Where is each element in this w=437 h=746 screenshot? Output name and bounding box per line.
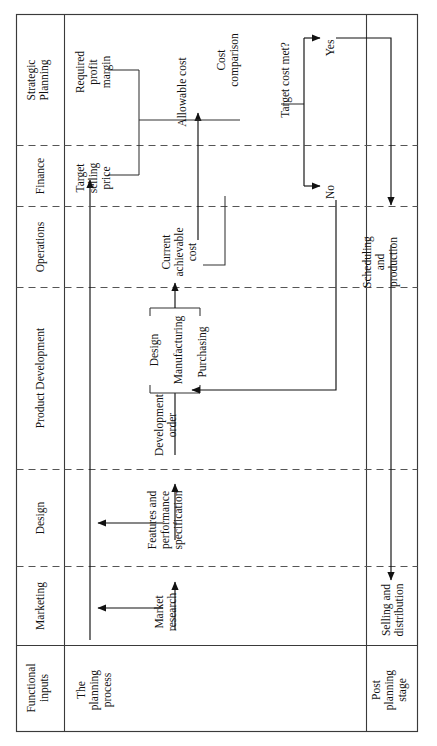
node-required-profit-margin-line3: margin [100, 56, 113, 89]
node-yes-text: Yes [324, 39, 336, 56]
node-no-text: No [324, 185, 336, 199]
node-market-research: Market research [153, 593, 178, 632]
lane-label-finance: Finance [34, 158, 46, 194]
node-current-achievable-cost-line2: achievable [173, 227, 185, 276]
lane-label-operations-text: Operations [34, 221, 47, 272]
node-purchasing-text: Purchasing [196, 326, 209, 377]
node-scheduling-line2: and [374, 253, 386, 270]
stage-label-planning-process: The planning process [75, 670, 114, 710]
yes-to-scheduling-path [336, 38, 391, 205]
node-selling-and-distribution: Selling and distribution [380, 583, 405, 636]
lane-label-finance-text: Finance [34, 158, 46, 194]
stage-label-planning-process-line2: planning [88, 670, 101, 710]
lane-label-functional-inputs: Functional inputs [25, 663, 51, 712]
node-required-profit-margin: Required profit margin [74, 51, 113, 93]
node-target-selling-price-line1: Target [74, 163, 87, 193]
node-target-selling-price-line2: selling [87, 162, 100, 193]
stage-label-planning-process-line1: The [75, 681, 87, 699]
node-current-achievable-cost-line1: Current [160, 234, 172, 270]
node-development-order-line1: Development [153, 393, 166, 456]
node-selling-line2: distribution [393, 583, 405, 636]
node-target-cost-met-text: Target cost met? [279, 42, 292, 118]
node-manufacturing-text: Manufacturing [172, 316, 185, 385]
node-target-cost-met: Target cost met? [279, 42, 292, 118]
node-development-order-line2: order [166, 413, 178, 437]
lane-label-strategic-planning-line1: Strategic [25, 60, 38, 101]
node-required-profit-margin-line2: profit [87, 58, 100, 84]
stage-label-post-planning-line3: stage [396, 678, 409, 702]
node-design-text: Design [148, 333, 161, 366]
node-features-line2: performance [159, 491, 172, 549]
node-features-line3: specification [172, 490, 185, 549]
diagram-frame [17, 15, 418, 732]
lane-label-functional-inputs-line2: inputs [38, 673, 51, 702]
node-allowable-cost-text: Allowable cost [176, 57, 188, 127]
node-market-research-line2: research [166, 593, 178, 632]
lane-labels: Strategic Planning Finance Operations Pr… [25, 59, 51, 712]
lane-label-design: Design [34, 501, 47, 534]
node-scheduling-line1: Scheduling [361, 236, 374, 288]
lane-label-product-development: Product Development [34, 327, 47, 428]
node-scheduling-and-production: Scheduling and production [361, 236, 400, 288]
node-design: Design [148, 333, 161, 366]
node-development-order: Development order [153, 393, 178, 456]
lane-separators [17, 146, 418, 646]
stage-label-post-planning-line2: planning [383, 670, 396, 710]
node-features-line1: Features and [146, 491, 158, 550]
node-market-research-line1: Market [153, 595, 165, 629]
flow-yes-to-scheduling [336, 38, 391, 205]
bracket-functions-upper [150, 308, 200, 316]
lane-label-design-text: Design [34, 501, 47, 534]
stage-label-planning-process-line3: process [101, 672, 114, 707]
node-cost-comparison-line1: Cost [215, 49, 227, 71]
node-current-achievable-cost: Current achievable cost [160, 227, 198, 276]
stage-labels: The planning process Post planning stage [75, 670, 409, 710]
node-allowable-cost: Allowable cost [176, 57, 188, 127]
flow-no-feedback-loop [192, 200, 336, 390]
node-manufacturing: Manufacturing [172, 316, 185, 385]
swimlane-diagram: Strategic Planning Finance Operations Pr… [0, 0, 437, 746]
node-target-selling-price: Target selling price [74, 162, 113, 193]
node-labels: Required profit margin Target selling pr… [74, 33, 405, 637]
stage-label-post-planning-line1: Post [370, 679, 382, 700]
lane-label-operations: Operations [34, 221, 47, 272]
node-cost-comparison-line2: comparison [228, 33, 241, 87]
no-loop-to-functions [192, 262, 336, 390]
node-yes: Yes [324, 39, 336, 56]
brace-profit-and-price [108, 70, 240, 175]
stage-label-post-planning: Post planning stage [370, 670, 409, 710]
lane-label-marketing: Marketing [34, 582, 47, 630]
node-no: No [324, 185, 336, 199]
node-current-achievable-cost-line3: cost [186, 242, 198, 261]
node-target-selling-price-line3: price [100, 167, 113, 190]
node-selling-line1: Selling and [380, 584, 393, 636]
lane-label-functional-inputs-line1: Functional [25, 663, 37, 712]
lane-label-strategic-planning: Strategic Planning [25, 59, 51, 100]
bracket-functions-lower [150, 385, 200, 393]
column-separators [65, 15, 367, 732]
node-required-profit-margin-line1: Required [74, 51, 87, 93]
lane-label-product-development-text: Product Development [34, 327, 47, 428]
lane-label-strategic-planning-line2: Planning [38, 59, 51, 100]
node-scheduling-line3: production [387, 237, 400, 287]
node-cost-comparison: Cost comparison [215, 33, 241, 87]
lane-label-marketing-text: Marketing [34, 582, 47, 630]
node-features-and-performance-specification: Features and performance specification [146, 490, 185, 549]
node-purchasing: Purchasing [196, 326, 209, 377]
